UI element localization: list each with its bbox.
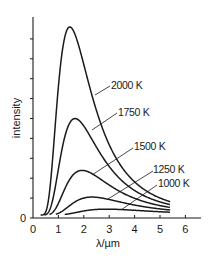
leader-line-1250k [108, 171, 153, 199]
curve-label-1000k: 1000 K [158, 177, 190, 189]
x-axis-title: λ/µm [96, 237, 120, 249]
x-axis-tick-labels: 0123456 [30, 223, 189, 235]
x-tick-label: 1 [55, 223, 61, 235]
y-axis-title: intensity [10, 97, 22, 138]
leader-line-2000k [95, 86, 110, 95]
curve-label-1750k: 1750 K [118, 106, 150, 118]
leader-line-1750k [92, 113, 117, 130]
x-tick-label: 5 [157, 223, 163, 235]
curve-1750k [44, 119, 169, 215]
curve-label-1250k: 1250 K [153, 163, 185, 175]
x-tick-label: 6 [182, 223, 188, 235]
blackbody-radiation-chart: 0123456 0 λ/µm intensity 2000 K 1750 K 1… [0, 0, 214, 260]
x-tick-label: 2 [81, 223, 87, 235]
y-origin-label: 0 [20, 212, 26, 224]
curve-label-2000k: 2000 K [111, 79, 143, 91]
x-tick-label: 4 [132, 223, 138, 235]
curve-label-1500k: 1500 K [134, 140, 166, 152]
x-tick-label: 3 [106, 223, 112, 235]
x-tick-label: 0 [30, 223, 36, 235]
curve-1000k [65, 209, 170, 214]
